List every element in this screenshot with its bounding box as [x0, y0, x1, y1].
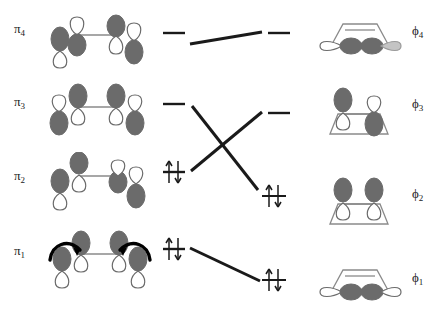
- correlation-line-1: [190, 32, 262, 44]
- orbital-butadiene-pi1: [44, 228, 162, 290]
- correlation-line-3: [191, 112, 262, 171]
- orbital-cyclobutene-phi4: [312, 12, 408, 60]
- label-phi3: ϕ3: [412, 96, 423, 112]
- correlation-line-2: [192, 106, 258, 190]
- orbital-correlation-diagram: π4 π3 π2 π1 ϕ4 ϕ3 ϕ2 ϕ1: [0, 0, 445, 313]
- electron-pair-pi2-icon: [166, 161, 181, 183]
- orbital-cyclobutene-phi3: [322, 86, 396, 142]
- level-tick-phi1: [262, 269, 286, 291]
- electron-pair-phi2-icon: [262, 185, 286, 207]
- orbital-cyclobutene-phi1: [312, 258, 408, 306]
- label-pi3: π3: [14, 94, 25, 110]
- label-phi1: ϕ1: [412, 270, 423, 286]
- label-phi2: ϕ2: [412, 186, 423, 202]
- label-phi4: ϕ4: [412, 23, 423, 39]
- electron-pair-pi1-icon: [166, 238, 181, 260]
- orbital-butadiene-pi4: [44, 8, 156, 70]
- electron-pair-phi1-icon: [262, 269, 286, 291]
- label-pi2: π2: [14, 168, 25, 184]
- label-pi1: π1: [14, 243, 25, 259]
- level-tick-pi2: [163, 161, 185, 183]
- correlation-line-4: [190, 248, 260, 281]
- level-tick-phi2: [262, 185, 286, 207]
- orbital-butadiene-pi2: [44, 152, 156, 214]
- label-pi4: π4: [14, 21, 25, 37]
- orbital-cyclobutene-phi2: [322, 176, 396, 232]
- orbital-butadiene-pi3: [46, 82, 156, 140]
- level-tick-pi1: [163, 238, 185, 260]
